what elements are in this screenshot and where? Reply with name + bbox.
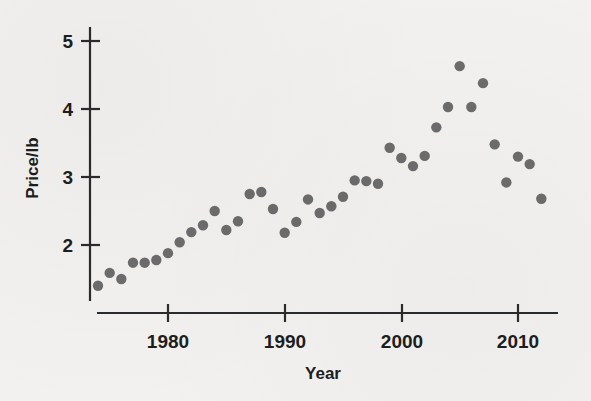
data-point [221, 225, 231, 235]
y-tick-label-5: 5 [62, 31, 73, 52]
x-tick-label-1980: 1980 [147, 331, 189, 352]
data-point [209, 206, 219, 216]
data-point [501, 177, 511, 187]
y-axis-title: Price/lb [23, 137, 42, 198]
x-tick-label-2000: 2000 [381, 331, 423, 352]
data-point [291, 217, 301, 227]
data-point [489, 139, 499, 149]
chart-canvas: 5 4 3 2 1980 1990 2000 2010 Year Price/l… [0, 0, 591, 401]
data-point [163, 248, 173, 258]
data-point [174, 237, 184, 247]
data-point [384, 143, 394, 153]
data-point [139, 257, 149, 267]
x-tick-label-2010: 2010 [497, 331, 539, 352]
data-point [104, 268, 114, 278]
data-point [268, 204, 278, 214]
y-tick-label-4: 4 [62, 99, 73, 120]
data-point [466, 102, 476, 112]
data-point [314, 208, 324, 218]
x-axis-title: Year [305, 364, 341, 383]
data-point [536, 194, 546, 204]
data-point [116, 274, 126, 284]
data-point [256, 187, 266, 197]
data-point [431, 122, 441, 132]
data-point [443, 102, 453, 112]
data-point [326, 201, 336, 211]
data-point [279, 228, 289, 238]
data-point [524, 159, 534, 169]
y-tick-label-3: 3 [62, 167, 73, 188]
data-point [198, 220, 208, 230]
data-point [93, 281, 103, 291]
data-point [454, 61, 464, 71]
data-point [373, 179, 383, 189]
data-point [349, 175, 359, 185]
data-point [151, 255, 161, 265]
data-point [233, 216, 243, 226]
data-point [303, 194, 313, 204]
x-tick-label-1990: 1990 [264, 331, 306, 352]
data-point [361, 176, 371, 186]
y-tick-label-2: 2 [62, 235, 73, 256]
data-point [513, 151, 523, 161]
data-point [338, 192, 348, 202]
data-point [128, 257, 138, 267]
data-point [186, 227, 196, 237]
data-point [478, 78, 488, 88]
data-point [396, 153, 406, 163]
scatter-plot-figure: 5 4 3 2 1980 1990 2000 2010 Year Price/l… [0, 0, 591, 401]
data-point [419, 151, 429, 161]
data-point [408, 161, 418, 171]
data-point [244, 189, 254, 199]
